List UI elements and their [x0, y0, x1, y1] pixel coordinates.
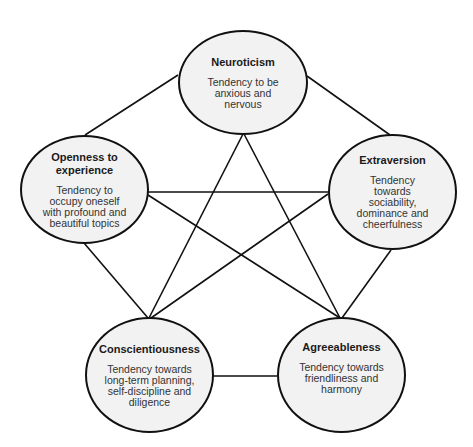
node-title: Conscientiousness: [99, 343, 200, 356]
edge-extraversion-agreeableness: [342, 250, 391, 318]
node-title: Neuroticism: [211, 56, 275, 69]
node-agreeableness: Agreeableness Tendency towards friendlin…: [277, 317, 406, 433]
node-description: Tendency towards sociability, dominance …: [357, 175, 429, 230]
node-title: Agreeableness: [302, 341, 380, 354]
edge-extraversion-conscientiousness: [151, 194, 328, 318]
node-description: Tendency towards long-term planning, sel…: [105, 364, 195, 408]
node-extraversion: Extraversion Tendency towards sociabilit…: [328, 134, 457, 250]
node-title: Openness to experience: [51, 151, 118, 177]
node-description: Tendency towards friendliness and harmon…: [299, 362, 384, 395]
edge-neuroticism-openness: [85, 75, 178, 135]
node-title: Extraversion: [359, 154, 426, 167]
node-description: Tendency to occupy oneself with profound…: [43, 185, 126, 229]
node-neuroticism: Neuroticism Tendency to be anxious and n…: [178, 30, 308, 135]
edge-neuroticism-extraversion: [307, 76, 390, 135]
edge-neuroticism-agreeableness: [244, 134, 340, 318]
edge-openness-conscientiousness: [84, 243, 148, 318]
node-conscientiousness: Conscientiousness Tendency towards long-…: [85, 317, 214, 433]
node-openness: Openness to experience Tendency to occup…: [20, 135, 149, 244]
node-description: Tendency to be anxious and nervous: [207, 77, 278, 110]
